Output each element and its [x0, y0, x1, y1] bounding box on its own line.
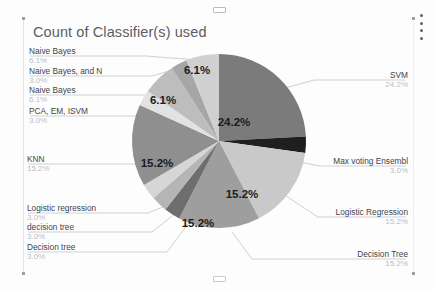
- pie-label-logistic-regression: 15.2%: [226, 188, 259, 200]
- callout-label: decision tree: [27, 222, 74, 232]
- kebab-dot-1: [420, 14, 423, 17]
- callout-label: Max voting Ensembl: [333, 156, 408, 166]
- kebab-dot-3: [420, 29, 423, 32]
- pie-chart: 24.2% 15.2% 15.2% 15.2% 6.1% 6.1%: [133, 48, 305, 234]
- callout-value: 3.0%: [27, 232, 74, 241]
- pie-label-knn: 15.2%: [141, 157, 174, 169]
- callout-pca-em-isvm[interactable]: PCA, EM, ISVM 3.0%: [29, 106, 88, 125]
- callout-label: PCA, EM, ISVM: [29, 106, 88, 116]
- callout-value: 3.0%: [29, 116, 88, 125]
- callout-label: Decision tree: [27, 242, 75, 252]
- callout-value: 15.2%: [357, 259, 408, 268]
- callout-value: 15.2%: [27, 164, 50, 173]
- callout-value: 6.1%: [29, 95, 76, 104]
- chart-card: Count of Classifier(s) used: [0, 0, 436, 291]
- kebab-menu-icon[interactable]: [417, 14, 426, 40]
- pie-label-naive-bayes-1: 6.1%: [150, 94, 176, 106]
- card-corner-handle-bottom-left[interactable]: [22, 272, 25, 275]
- callout-value: 3.0%: [27, 252, 75, 261]
- callout-max-voting-ensemble[interactable]: Max voting Ensembl 3.0%: [333, 156, 408, 175]
- callout-naive-bayes-2[interactable]: Naive Bayes 6.1%: [29, 85, 76, 104]
- pie-svg: 24.2% 15.2% 15.2% 15.2% 6.1% 6.1%: [133, 48, 305, 234]
- callout-label: Naive Bayes, and N: [29, 66, 102, 76]
- callout-svm[interactable]: SVM 24.2%: [385, 70, 408, 89]
- callout-logistic-regression-large[interactable]: Logistic Regression 15.2%: [336, 207, 408, 226]
- pie-slices: [132, 54, 306, 228]
- callout-naive-bayes-and-n[interactable]: Naive Bayes, and N 3.0%: [29, 66, 102, 85]
- callout-value: 3.0%: [29, 76, 102, 85]
- callout-value: 3.0%: [27, 213, 96, 222]
- callout-label: Decision Tree: [357, 249, 408, 259]
- callout-logistic-regression-small[interactable]: Logistic regression 3.0%: [27, 203, 96, 222]
- card-edge-left: [23, 20, 24, 272]
- callout-decision-tree-large[interactable]: Decision Tree 15.2%: [357, 249, 408, 268]
- pie-label-naive-bayes-2: 6.1%: [184, 64, 210, 76]
- callout-decision-tree-small[interactable]: Decision tree 3.0%: [27, 242, 75, 261]
- callout-label: Logistic regression: [27, 203, 96, 213]
- callout-knn[interactable]: KNN 15.2%: [27, 154, 50, 173]
- callout-value: 3.0%: [333, 166, 408, 175]
- callout-value: 24.2%: [385, 80, 408, 89]
- card-edge-right: [413, 20, 414, 272]
- callout-label: SVM: [385, 70, 408, 80]
- callout-label: KNN: [27, 154, 50, 164]
- pie-label-decision-tree: 15.2%: [182, 217, 215, 229]
- callout-value: 15.2%: [336, 217, 408, 226]
- callout-label: Naive Bayes: [29, 85, 76, 95]
- callout-decision-tree-lower[interactable]: decision tree 3.0%: [27, 222, 74, 241]
- kebab-dot-4: [420, 37, 423, 40]
- resize-handle-icon-top[interactable]: [213, 7, 226, 13]
- kebab-dot-2: [420, 22, 423, 25]
- pie-label-svm: 24.2%: [218, 116, 251, 128]
- callout-naive-bayes-1[interactable]: Naive Bayes 6.1%: [29, 46, 76, 65]
- callout-value: 6.1%: [29, 56, 76, 65]
- callout-label: Naive Bayes: [29, 46, 76, 56]
- callout-label: Logistic Regression: [336, 207, 408, 217]
- resize-handle-icon-bottom[interactable]: [213, 276, 226, 282]
- card-corner-handle-bottom-right[interactable]: [412, 272, 415, 275]
- chart-title: Count of Classifier(s) used: [33, 24, 207, 40]
